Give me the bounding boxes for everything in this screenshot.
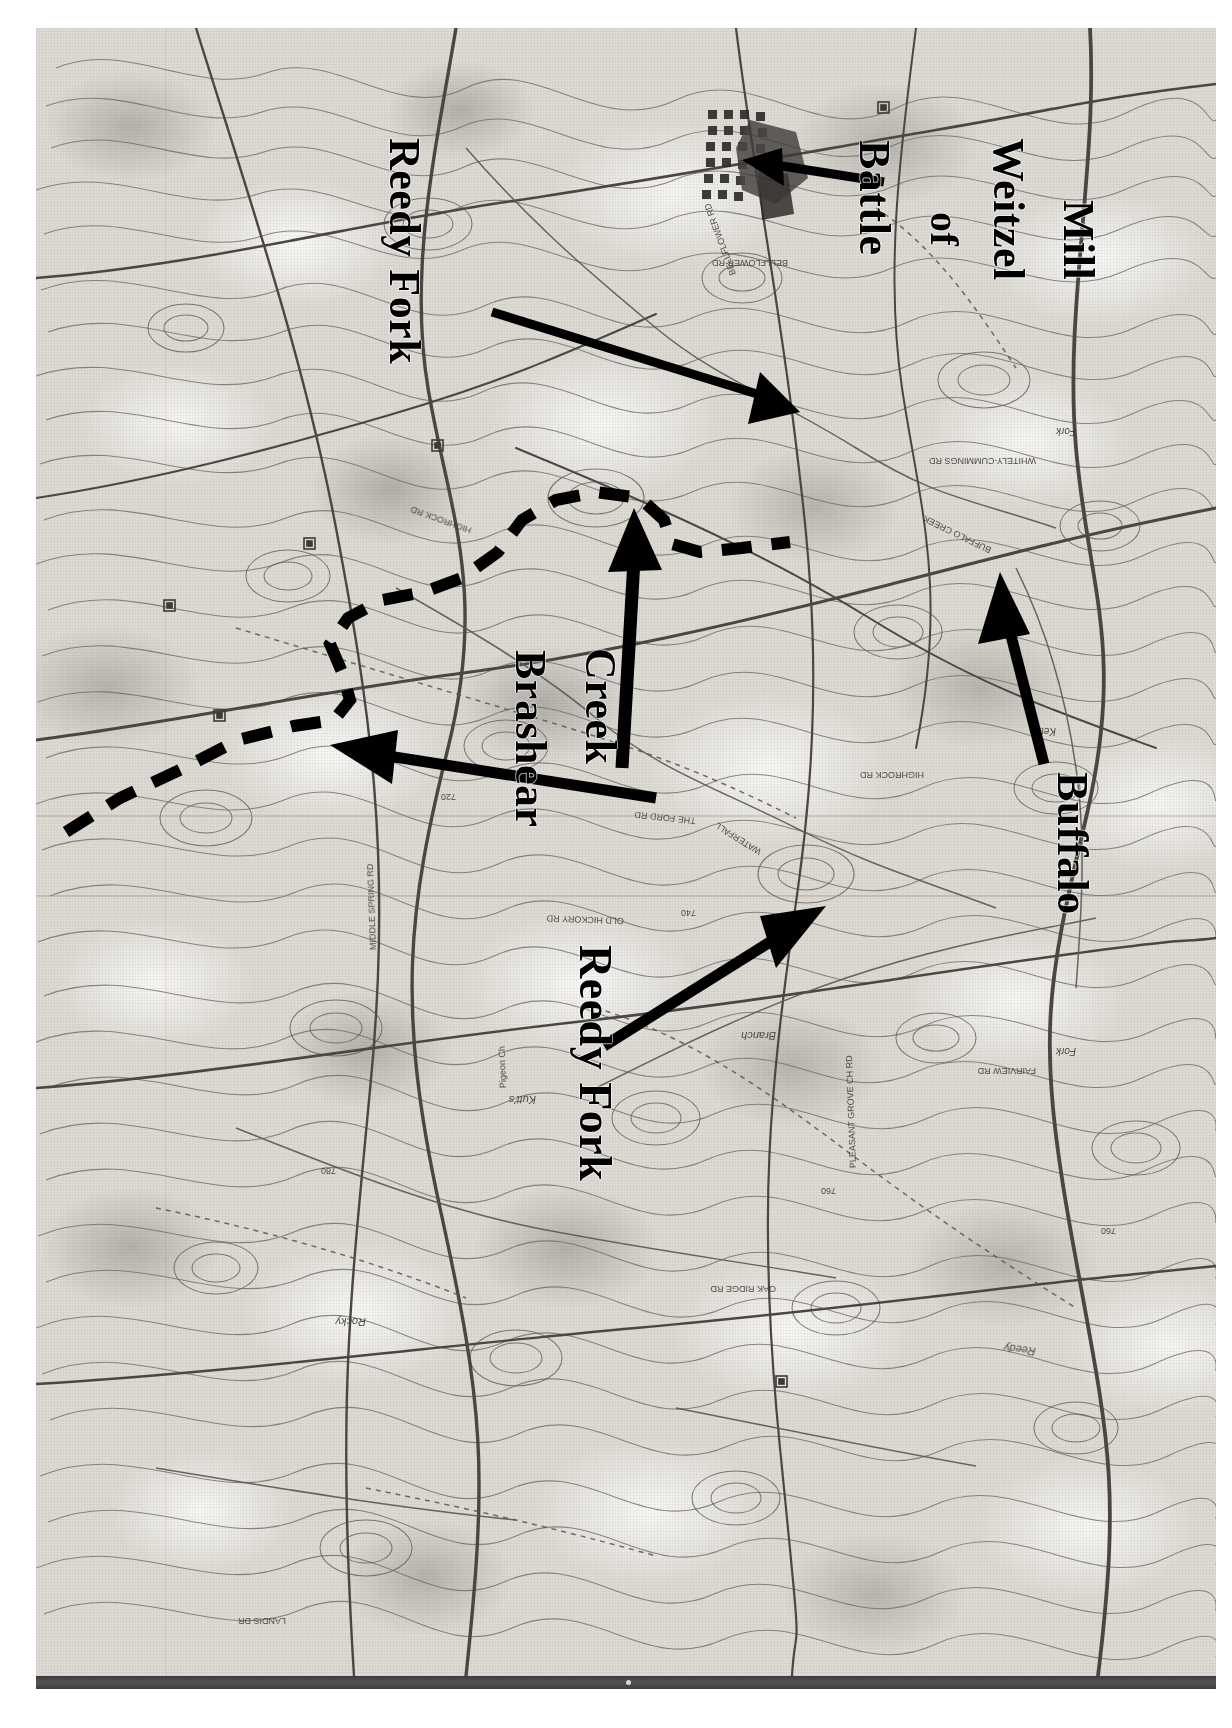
border-bar-tick	[626, 1680, 631, 1685]
bottom-border-bar	[36, 1676, 1216, 1689]
label-of: of	[921, 212, 968, 246]
label-buffalo: Buffalo	[1047, 772, 1098, 915]
arrow-to-reedy-fork-lower	[604, 906, 826, 1046]
arrow-to-reedy-fork-upper	[492, 312, 800, 424]
label-battle: Battle	[849, 140, 900, 255]
label-brashear: Brashear	[505, 650, 556, 828]
troop-position-dashed-line	[66, 492, 790, 832]
annotation-overlay: Reedy Fork Battle of Weitzel Mill Brashe…	[0, 0, 1232, 1728]
label-weitzel: Weitzel	[983, 138, 1034, 281]
label-mill: Mill	[1053, 200, 1104, 280]
label-reedy-fork-upper: Reedy Fork	[379, 138, 430, 364]
label-creek: Creek	[575, 648, 626, 765]
arrow-to-buffalo	[978, 572, 1044, 764]
map-root: BELLFLOWER RD BELLFLOWER RD HIGHROCK RD …	[0, 0, 1232, 1728]
label-reedy-fork-lower: Reedy Fork	[569, 945, 622, 1181]
